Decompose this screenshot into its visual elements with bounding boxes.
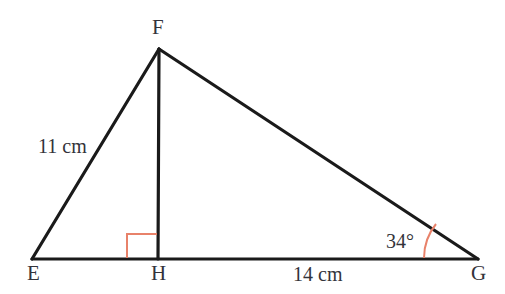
vertex-label-h: H bbox=[151, 263, 166, 284]
vertex-label-f: F bbox=[152, 17, 164, 38]
geometry-diagram: E F H G 11 cm 14 cm 34° bbox=[0, 0, 505, 294]
vertex-label-g: G bbox=[471, 263, 486, 284]
side-length-label-ef: 11 cm bbox=[38, 136, 87, 156]
segment-fh-altitude bbox=[158, 49, 159, 259]
angle-label-g: 34° bbox=[386, 231, 414, 251]
side-length-label-hg: 14 cm bbox=[293, 264, 342, 284]
segment-fg bbox=[159, 49, 478, 259]
vertex-label-e: E bbox=[27, 263, 40, 284]
right-angle-marker-icon bbox=[127, 234, 157, 258]
